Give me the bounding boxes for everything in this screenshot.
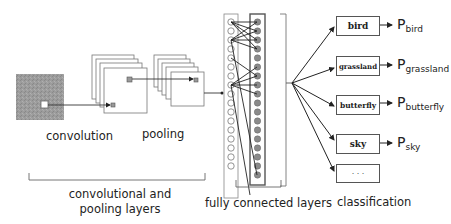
fc-output-bracket [280,14,286,186]
class-box-butterfly: butterfly [336,95,380,115]
class-box-more: · · · [336,164,380,183]
prob-butterfly: Pbutterfly [397,94,444,112]
class-box-sky: sky [336,134,380,154]
conv-receptive-field [127,77,132,82]
convolution-feature-maps [92,55,147,113]
conv-pool-group-label-line2: pooling layers [60,202,180,216]
conv-pool-bracket [29,173,205,180]
conv-pool-group-label-line1: convolutional and [60,187,180,201]
prob-sky: Psky [397,134,420,152]
pooling-label: pooling [142,127,184,141]
class-box-bird: bird [336,16,380,36]
classification-label: classification [337,195,411,209]
class-box-grassland: grassland [336,56,380,76]
conv-output-cell [111,103,115,107]
input-image [16,74,64,120]
fully-connected-label: fully connected layers [205,196,332,210]
output-arrows [292,27,334,171]
prob-bird: Pbird [397,16,423,34]
convolution-label: convolution [46,129,113,143]
prob-arrows [380,25,392,143]
prob-grassland: Pgrassland [397,56,449,74]
pool-output-cell [194,78,198,82]
